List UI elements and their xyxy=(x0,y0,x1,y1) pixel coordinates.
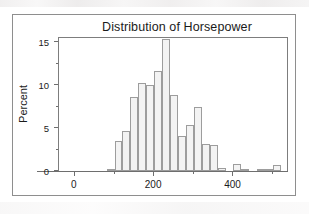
x-tick-label: 0 xyxy=(71,179,77,190)
scan-artifact-top xyxy=(0,0,309,7)
x-tick-label: 200 xyxy=(145,179,162,190)
scan-artifact-bottom xyxy=(0,202,309,214)
histogram-chart: Distribution of Horsepower Percent 05101… xyxy=(13,15,295,195)
tick-layer: 0510150200400 xyxy=(13,15,295,195)
y-tick-label: 0 xyxy=(44,166,49,177)
y-tick-label: 10 xyxy=(38,80,49,91)
y-tick-label: 5 xyxy=(44,123,49,134)
y-tick-label: 15 xyxy=(38,37,49,48)
x-tick-label: 400 xyxy=(224,179,241,190)
chart-frame: Distribution of Horsepower Percent 05101… xyxy=(12,14,296,196)
